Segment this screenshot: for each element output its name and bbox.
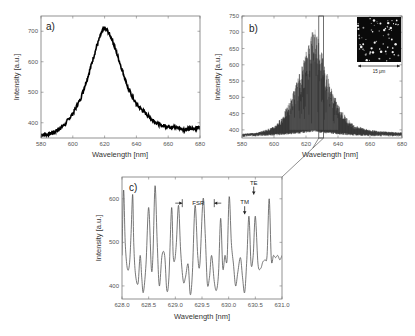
y-tick-label: 500 bbox=[109, 239, 120, 245]
panel-a-xlabel: Wavelength [nm] bbox=[92, 150, 148, 159]
y-tick-label: 400 bbox=[229, 127, 240, 133]
y-tick-label: 650 bbox=[229, 46, 240, 52]
fsr-label: FSR bbox=[192, 200, 205, 206]
y-tick-label: 450 bbox=[229, 111, 240, 117]
x-tick-label: 680 bbox=[195, 141, 206, 147]
figure: 580600620640660680400500600700 a) Wavele… bbox=[0, 0, 415, 336]
y-tick-label: 700 bbox=[229, 29, 240, 35]
panel-a-label: a) bbox=[46, 21, 55, 32]
x-tick-label: 631.0 bbox=[274, 302, 290, 308]
x-tick-label: 580 bbox=[36, 141, 47, 147]
x-tick-label: 660 bbox=[163, 141, 174, 147]
x-tick-label: 600 bbox=[68, 141, 79, 147]
x-tick-label: 630.5 bbox=[248, 302, 264, 308]
panel-b-xlabel: Wavelength [nm] bbox=[302, 150, 358, 159]
panel-c-ylabel: Intensity [a.u.] bbox=[94, 215, 103, 262]
y-tick-label: 750 bbox=[229, 13, 240, 19]
y-tick-label: 600 bbox=[28, 59, 39, 65]
x-tick-label: 680 bbox=[397, 141, 408, 147]
x-tick-label: 628.0 bbox=[114, 302, 130, 308]
scale-bar-label: 15 μm bbox=[373, 69, 386, 74]
x-tick-label: 620 bbox=[301, 141, 312, 147]
panel-b-label: b) bbox=[249, 23, 258, 34]
panel-a-ylabel: Intensity [a.u.] bbox=[12, 54, 21, 101]
x-tick-label: 580 bbox=[237, 141, 248, 147]
x-tick-label: 640 bbox=[333, 141, 344, 147]
panel-b-ylabel: Intensity [a.u.] bbox=[213, 54, 222, 101]
x-tick-label: 640 bbox=[131, 141, 142, 147]
tm-mode-label: TM bbox=[240, 199, 249, 205]
y-tick-label: 600 bbox=[229, 62, 240, 68]
y-tick-label: 600 bbox=[109, 196, 120, 202]
y-tick-label: 500 bbox=[229, 94, 240, 100]
panel-c-xlabel: Wavelength [nm] bbox=[174, 312, 230, 321]
x-tick-label: 620 bbox=[100, 141, 111, 147]
te-mode-label: TE bbox=[250, 180, 258, 186]
y-tick-label: 550 bbox=[229, 78, 240, 84]
y-tick-label: 500 bbox=[28, 89, 39, 95]
y-tick-label: 400 bbox=[109, 283, 120, 289]
x-tick-label: 629.5 bbox=[194, 302, 210, 308]
x-tick-label: 628.5 bbox=[141, 302, 157, 308]
x-tick-label: 630.0 bbox=[221, 302, 237, 308]
x-tick-label: 660 bbox=[365, 141, 376, 147]
x-tick-label: 600 bbox=[269, 141, 280, 147]
x-tick-label: 629.0 bbox=[168, 302, 184, 308]
panel-c-label: c) bbox=[129, 182, 137, 193]
y-tick-label: 400 bbox=[28, 120, 39, 126]
y-tick-label: 700 bbox=[28, 28, 39, 34]
